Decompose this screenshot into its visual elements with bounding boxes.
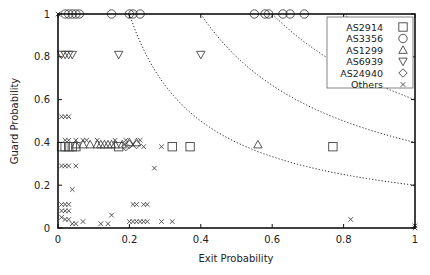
y-tick-label: 0.2 — [34, 180, 50, 191]
others-marker — [84, 138, 89, 143]
others-marker — [109, 213, 114, 218]
legend: AS2914AS3356AS1299AS6939AS24940Others — [327, 17, 413, 90]
y-tick-label: 1 — [44, 9, 50, 20]
others-marker — [348, 217, 353, 222]
others-marker — [66, 209, 71, 214]
y-tick-label: 0.4 — [34, 137, 50, 148]
others-marker — [66, 217, 71, 222]
others-marker — [66, 164, 71, 169]
others-marker — [81, 219, 86, 224]
others-marker — [74, 221, 79, 226]
others-marker — [159, 219, 164, 224]
others-marker — [152, 166, 157, 171]
as2914-marker — [329, 142, 337, 150]
others-marker — [134, 202, 139, 207]
y-tick-label: 0.6 — [34, 94, 50, 105]
others-marker — [70, 187, 75, 192]
others-marker — [74, 164, 79, 169]
others-marker — [159, 144, 164, 149]
as6939-marker — [197, 51, 205, 59]
y-tick-label: 0 — [44, 223, 50, 234]
x-tick-label: 0.6 — [264, 234, 280, 245]
others-marker — [113, 138, 118, 143]
others-marker — [145, 202, 150, 207]
others-marker — [138, 138, 143, 143]
legend-label: AS1299 — [346, 45, 383, 56]
as2914-marker — [168, 142, 176, 150]
legend-label: Others — [351, 79, 383, 90]
as6939-marker — [114, 51, 122, 59]
others-marker — [106, 221, 111, 226]
x-tick-label: 1 — [412, 234, 418, 245]
x-axis-label: Exit Probability — [199, 253, 274, 264]
others-marker — [141, 144, 146, 149]
x-tick-label: 0.2 — [121, 234, 137, 245]
others-marker — [66, 138, 71, 143]
as1299-marker — [254, 140, 262, 148]
others-marker — [99, 221, 104, 226]
scatter-chart: 00.20.40.60.81 00.20.40.60.81 Exit Proba… — [0, 0, 430, 275]
as2914-marker — [186, 142, 194, 150]
y-axis-label: Guard Probability — [9, 78, 20, 165]
others-marker — [66, 202, 71, 207]
x-tick-label: 0 — [55, 234, 61, 245]
others-marker — [145, 219, 150, 224]
y-tick-label: 0.8 — [34, 51, 50, 62]
series-as1299 — [72, 138, 262, 148]
x-tick-label: 0.4 — [193, 234, 209, 245]
legend-label: AS3356 — [346, 33, 383, 44]
others-marker — [170, 219, 175, 224]
legend-label: AS6939 — [346, 56, 383, 67]
others-marker — [74, 138, 79, 143]
x-tick-label: 0.8 — [336, 234, 352, 245]
others-marker — [66, 114, 71, 119]
legend-label: AS2914 — [346, 22, 383, 33]
legend-label: AS24940 — [340, 68, 383, 79]
others-marker — [95, 138, 100, 143]
series-as6939 — [57, 51, 205, 59]
